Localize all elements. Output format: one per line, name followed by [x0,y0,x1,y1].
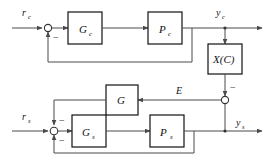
summing-junction-upper [44,24,51,31]
signal-label-rc: r [22,7,26,18]
block-xc-label: X(C) [212,53,235,66]
sign-minus-right: − [230,82,236,93]
signal-label-ys-subscript: s [242,123,245,130]
sign-minus-lower-top: − [59,115,65,126]
tap-lower-output [223,129,226,132]
signal-label-yc-subscript: c [222,13,225,20]
block-diagram-svg: G c P c − r c y c X(C) − [0,0,268,162]
signal-label-rs: r [22,111,26,122]
block-ps-label: P [159,126,167,138]
sign-minus-upper: − [53,32,59,43]
block-gc-label: G [79,23,87,35]
summing-junction-right [221,96,228,103]
signal-label-rc-subscript: c [28,13,31,20]
block-ps [150,115,184,147]
block-gs-subscript: s [92,133,95,141]
block-gs-label: G [82,126,90,138]
signal-label-yc: y [215,7,221,18]
signal-label-rs-subscript: s [28,117,31,124]
block-g-label: G [117,94,125,106]
block-diagram-canvas: G c P c − r c y c X(C) − [0,0,268,162]
signal-label-ys: y [235,117,241,128]
signal-label-e: E [175,85,182,96]
block-ps-subscript: s [170,133,173,141]
block-pc-label: P [158,23,166,35]
sign-minus-lower-bottom: − [59,135,65,146]
summing-junction-lower [50,127,58,135]
